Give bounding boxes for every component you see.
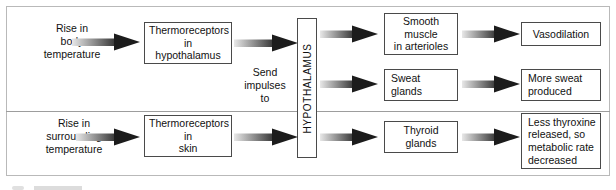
arrow-receptors-hypo-to-hypothalamus — [234, 33, 298, 53]
smooth-muscle-line-2: muscle — [389, 28, 453, 41]
receptors-skin-line-3: skin — [149, 142, 227, 155]
less-thyroxine-line-2: released, so — [528, 128, 596, 141]
receptors-hypo-line-3: hypothalamus — [149, 49, 227, 62]
less-thyroxine-line-3: metabolic rate — [528, 141, 596, 154]
box-thermoreceptors-hypothalamus: Thermoreceptors in hypothalamus — [144, 22, 232, 64]
arrow-smooth-muscle-to-vasodilation — [462, 24, 520, 44]
box-more-sweat-produced: More sweat produced — [521, 69, 601, 101]
connector-note-line-3: to — [234, 92, 296, 105]
vasodilation-line-1: Vasodilation — [526, 28, 596, 41]
box-less-thyroxine-released: Less thyroxine released, so metabolic ra… — [521, 113, 601, 169]
diagram-canvas: Rise in body temperature Thermoreceptors… — [0, 0, 616, 190]
arrow-hypothalamus-to-smooth-muscle — [320, 24, 378, 44]
arrow-hypothalamus-to-thyroid-glands — [320, 127, 378, 147]
arrow-hypothalamus-to-sweat-glands — [320, 74, 378, 94]
receptors-hypo-line-1: Thermoreceptors — [149, 24, 227, 37]
receptors-skin-line-2: in — [149, 130, 227, 143]
receptors-skin-line-1: Thermoreceptors — [149, 117, 227, 130]
arrow-surrounding-to-receptors — [76, 127, 140, 147]
more-sweat-line-1: More sweat — [528, 72, 596, 85]
more-sweat-line-2: produced — [528, 85, 596, 98]
thyroid-glands-line-1: Thyroid — [389, 124, 453, 137]
page-artifact-left — [12, 186, 24, 190]
smooth-muscle-line-3: in arterioles — [389, 40, 453, 53]
hypothalamus-label: HYPOTHALAMUS — [302, 43, 313, 133]
receptors-hypo-line-2: in — [149, 37, 227, 50]
smooth-muscle-line-1: Smooth — [389, 15, 453, 28]
page-artifact-right — [34, 186, 82, 190]
arrow-body-to-receptors — [72, 32, 140, 52]
box-thyroid-glands: Thyroid glands — [384, 121, 458, 153]
box-sweat-glands: Sweat glands — [384, 69, 458, 101]
less-thyroxine-line-1: Less thyroxine — [528, 116, 596, 129]
box-smooth-muscle-arterioles: Smooth muscle in arterioles — [384, 13, 458, 55]
connector-note-line-2: impulses — [234, 79, 296, 92]
thyroid-glands-line-2: glands — [389, 137, 453, 150]
connector-note-send-impulses-to: Send impulses to — [234, 66, 296, 105]
sweat-glands-line-2: glands — [391, 85, 453, 98]
arrow-sweat-glands-to-more-sweat — [462, 74, 520, 94]
connector-note-line-1: Send — [234, 66, 296, 79]
sweat-glands-line-1: Sweat — [391, 72, 453, 85]
arrow-thyroid-to-less-thyroxine — [462, 127, 520, 147]
box-thermoreceptors-skin: Thermoreceptors in skin — [144, 115, 232, 157]
arrow-receptors-skin-to-hypothalamus — [234, 127, 298, 147]
box-vasodilation: Vasodilation — [521, 22, 601, 46]
less-thyroxine-line-4: decreased — [528, 154, 596, 167]
box-hypothalamus: HYPOTHALAMUS — [297, 18, 317, 158]
